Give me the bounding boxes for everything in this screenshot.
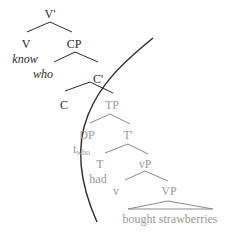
word-know: know [12,52,37,66]
node-littlevp: vP [139,157,152,171]
edge-tp [90,114,130,124]
node-v: V [22,37,31,51]
node-tp: TP [105,98,119,112]
node-c: C [60,98,68,112]
syntax-tree-diagram: V' V CP know who C' C TP DP T' twho T vP… [0,0,232,235]
word-had: had [89,172,106,186]
node-cbar: C' [93,72,103,86]
node-cp: CP [67,37,82,51]
node-vbar: V' [45,7,56,21]
node-tbar: T' [123,128,133,142]
vp-content: bought strawberries [123,212,218,226]
node-vp: VP [161,184,177,198]
node-dp: DP [79,128,95,142]
edge-littlevp [125,171,168,181]
vp-triangle [128,201,213,209]
node-t: T [96,157,104,171]
word-who: who [33,67,53,81]
node-littlev: v [113,184,119,198]
edge-cp [54,52,98,62]
edge-tbar [105,144,148,154]
edge-vbar [27,22,72,32]
